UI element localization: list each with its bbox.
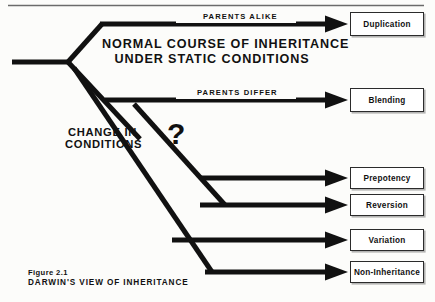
outcome-label-duplication: Duplication bbox=[363, 20, 410, 29]
center-heading-line-2: UNDER STATIC CONDITIONS bbox=[102, 52, 322, 67]
outcome-box-prepotency[interactable]: Prepotency bbox=[350, 167, 424, 189]
arrowhead-blending bbox=[325, 92, 348, 109]
outcome-label-prepotency: Prepotency bbox=[363, 174, 410, 183]
outcome-box-reversion[interactable]: Reversion bbox=[350, 194, 424, 216]
arrowhead-non-inheritance bbox=[325, 264, 348, 281]
question-mark-label: ? bbox=[167, 117, 186, 151]
arrowhead-reversion bbox=[325, 197, 348, 214]
change-conditions-line-1: CHANGE IN bbox=[68, 126, 137, 139]
figure-caption: Figure 2.1 DARWIN'S VIEW OF INHERITANCE bbox=[28, 268, 189, 287]
outcome-label-non-inheritance: Non-Inheritance bbox=[354, 268, 420, 277]
outcome-box-blending[interactable]: Blending bbox=[350, 88, 424, 112]
outcome-box-duplication[interactable]: Duplication bbox=[350, 12, 424, 36]
outcome-box-variation[interactable]: Variation bbox=[350, 229, 424, 251]
outcome-label-blending: Blending bbox=[368, 96, 405, 105]
fork-upper-diagonal bbox=[68, 24, 102, 62]
change-conditions-line-2: CONDITIONS bbox=[65, 138, 142, 151]
outcome-label-variation: Variation bbox=[369, 236, 406, 245]
branch-label-parents-alike: PARENTS ALIKE bbox=[203, 12, 278, 21]
figure-caption-title: DARWIN'S VIEW OF INHERITANCE bbox=[28, 278, 189, 287]
arrowhead-duplication bbox=[325, 16, 348, 33]
center-heading-line-1: NORMAL COURSE OF INHERITANCE bbox=[102, 37, 322, 52]
figure-caption-number: Figure 2.1 bbox=[28, 268, 189, 277]
arrowhead-prepotency bbox=[325, 170, 348, 187]
arrowhead-variation bbox=[325, 232, 348, 249]
figure-container: PARENTS ALIKE PARENTS DIFFER NORMAL COUR… bbox=[0, 0, 435, 302]
outcome-label-reversion: Reversion bbox=[366, 201, 408, 210]
outcome-box-non-inheritance[interactable]: Non-Inheritance bbox=[350, 261, 424, 283]
branch-label-parents-differ: PARENTS DIFFER bbox=[197, 88, 278, 97]
